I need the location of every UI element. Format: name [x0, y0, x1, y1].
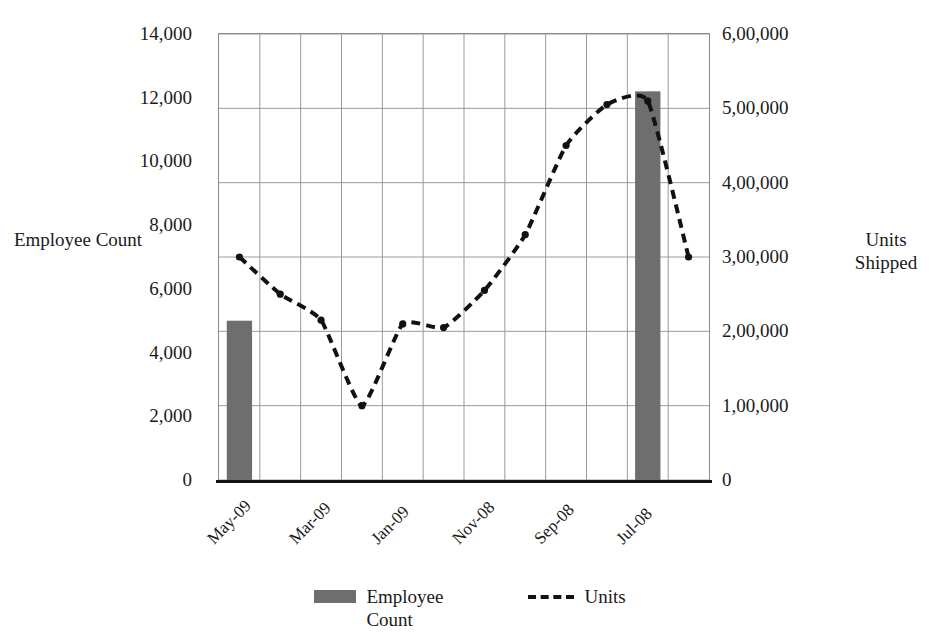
y-axis-right-tick-label: 2,00,000	[722, 321, 789, 340]
x-axis-tick-label: May-09	[204, 497, 254, 547]
plot-area	[218, 33, 710, 481]
y-axis-left-title: Employee Count	[8, 228, 148, 251]
legend-item-employee-count: Employee Count	[314, 585, 486, 631]
bar-swatch-icon	[314, 590, 356, 603]
y-axis-right-tick-label: 0	[722, 470, 732, 489]
y-axis-left-tick-label: 4,000	[149, 343, 192, 362]
data-point-marker	[562, 142, 569, 149]
bar	[227, 321, 252, 480]
y-axis-right-tick-label: 1,00,000	[722, 396, 789, 415]
data-point-marker	[685, 253, 692, 260]
y-axis-right-tick-label: 3,00,000	[722, 247, 789, 266]
dashed-line-icon	[528, 595, 574, 599]
bar-series	[227, 91, 661, 480]
y-axis-left-tick-label: 2,000	[149, 406, 192, 425]
data-point-marker	[440, 324, 447, 331]
x-axis-tick-label: Sep-08	[531, 501, 577, 547]
chart-canvas: Employee Count Units Shipped 02,0004,000…	[0, 0, 940, 644]
chart-legend: Employee Count Units	[0, 585, 940, 643]
x-axis-tick-label: Jan-09	[368, 503, 412, 547]
y-axis-left-tick-label: 14,000	[140, 24, 192, 43]
y-axis-right-tick-label: 6,00,000	[722, 24, 789, 43]
legend-label-units: Units	[584, 585, 625, 608]
y-axis-right-tick-label: 5,00,000	[722, 98, 789, 117]
data-point-marker	[644, 97, 651, 104]
y-axis-left-tick-label: 0	[183, 470, 193, 489]
y-axis-right-tick-label: 4,00,000	[722, 173, 789, 192]
bar	[635, 91, 660, 480]
y-axis-left-tick-label: 8,000	[149, 215, 192, 234]
y-axis-right-title: Units Shipped	[838, 228, 934, 274]
data-point-marker	[399, 320, 406, 327]
data-point-marker	[317, 317, 324, 324]
data-point-marker	[277, 291, 284, 298]
data-point-marker	[522, 231, 529, 238]
x-axis-tick-label: Jul-08	[613, 505, 655, 547]
y-axis-left-tick-label: 10,000	[140, 151, 192, 170]
x-axis-baseline	[216, 480, 712, 483]
data-point-marker	[603, 101, 610, 108]
y-axis-left-tick-label: 6,000	[149, 279, 192, 298]
data-point-marker	[358, 402, 365, 409]
data-point-marker	[236, 253, 243, 260]
y-axis-left-tick-label: 12,000	[140, 88, 192, 107]
x-axis-tick-label: Mar-09	[286, 499, 334, 547]
legend-label-employee-count: Employee Count	[366, 585, 486, 631]
legend-item-units: Units	[528, 585, 625, 608]
x-axis-tick-label: Nov-08	[449, 498, 498, 547]
data-point-marker	[481, 287, 488, 294]
